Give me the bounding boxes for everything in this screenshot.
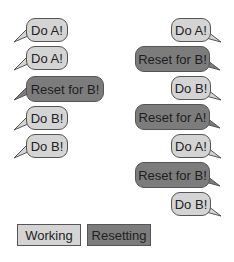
left-bubble-2: Do A! (26, 46, 68, 70)
left-bubble-3: Reset for B! (26, 76, 104, 102)
right-bubble-2: Reset for B! (135, 46, 210, 72)
left-bubble-4: Do B! (26, 106, 68, 130)
right-bubble-4: Reset for A! (135, 104, 210, 130)
right-bubble-6: Reset for B! (135, 162, 210, 188)
legend-resetting: Resetting (87, 224, 151, 246)
left-bubble-1: Do A! (26, 18, 68, 42)
right-bubble-7: Do B! (171, 192, 211, 216)
legend-working: Working (17, 224, 81, 246)
right-bubble-1: Do A! (171, 18, 211, 42)
right-bubble-5: Do A! (171, 134, 211, 158)
right-bubble-3: Do B! (171, 76, 211, 100)
left-bubble-5: Do B! (26, 134, 68, 158)
